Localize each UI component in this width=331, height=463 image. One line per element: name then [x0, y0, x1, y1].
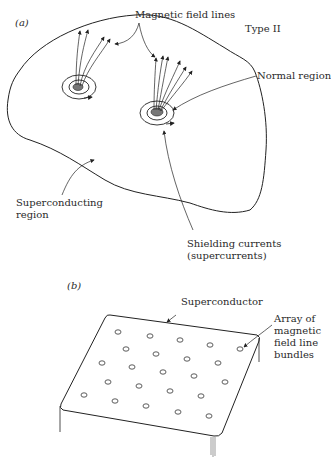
superconductor-label: Superconductor	[181, 296, 263, 307]
vortex-1	[62, 30, 110, 99]
panel-a-label: (a)	[15, 17, 29, 28]
vortex-2	[140, 56, 192, 125]
superconducting-label-1: Superconducting	[16, 197, 103, 208]
array-label-1: Array of	[274, 313, 315, 324]
shielding-label-2: (supercurrents)	[187, 250, 267, 261]
shielding-label-1: Shielding currents	[187, 238, 281, 249]
array-label-2: magnetic	[274, 325, 321, 336]
normal-region-label: Normal region	[257, 70, 331, 81]
superconducting-label-2: region	[16, 209, 49, 220]
array-label-3: field line	[274, 337, 318, 348]
array-label-4: bundles	[274, 349, 314, 360]
superconductor-slab	[60, 315, 260, 457]
field-line-bundles	[81, 330, 243, 418]
figure: (a) Magnetic field lines Type II Normal …	[0, 0, 331, 463]
panel-b-label: (b)	[67, 280, 81, 291]
type-label: Type II	[245, 23, 281, 34]
superconductor-outline	[7, 15, 266, 213]
field-lines-label: Magnetic field lines	[135, 9, 235, 20]
